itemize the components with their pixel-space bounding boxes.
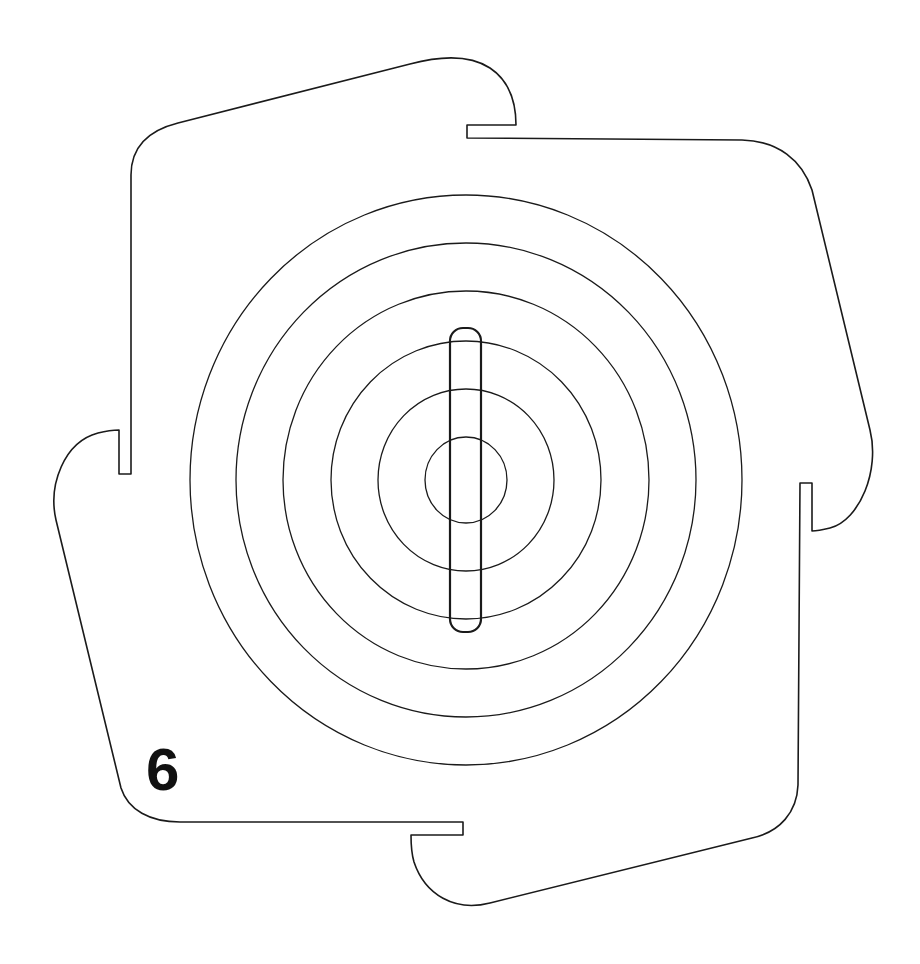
ring-6-center [425,437,507,523]
ring-4 [331,341,601,619]
ring-2 [236,243,696,717]
concentric-rings [190,195,742,765]
ring-1 [190,195,742,765]
ring-3 [283,291,649,669]
center-slot [450,328,481,632]
ring-5 [378,389,554,571]
figure-number-label: 6 [146,736,179,803]
pinwheel-disc-diagram: 6 [0,0,920,964]
